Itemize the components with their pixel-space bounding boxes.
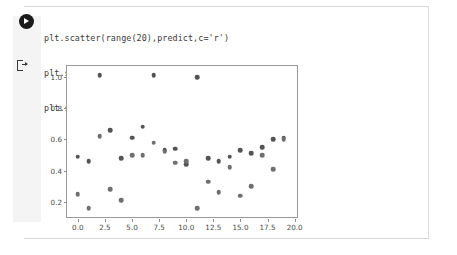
x-axis-tick-label: 12.5 bbox=[205, 223, 221, 232]
scatter-point bbox=[206, 156, 211, 161]
scatter-point bbox=[260, 153, 265, 158]
output-prompt-arrowhead bbox=[25, 62, 28, 66]
y-axis-tick bbox=[64, 139, 67, 140]
scatter-point bbox=[206, 179, 211, 184]
x-axis-tick bbox=[213, 219, 214, 222]
x-axis-tick-label: 2.5 bbox=[99, 223, 110, 232]
x-axis-tick bbox=[132, 219, 133, 222]
code-line: plt.scatter(range(20),predict,c='r') bbox=[44, 33, 229, 45]
scatter-point bbox=[141, 125, 146, 130]
plot-axes: 0.02.55.07.510.012.515.017.520.00.20.40.… bbox=[66, 65, 298, 218]
scatter-point bbox=[130, 136, 135, 141]
x-axis-tick bbox=[295, 219, 296, 222]
scatter-point bbox=[141, 153, 146, 158]
scatter-point bbox=[216, 159, 221, 164]
scatter-point bbox=[162, 150, 167, 155]
scatter-point bbox=[151, 73, 156, 78]
output-prompt-frame bbox=[17, 60, 23, 71]
scatter-point bbox=[119, 198, 124, 203]
x-axis-tick-label: 15.0 bbox=[232, 223, 248, 232]
scatter-point bbox=[282, 137, 287, 142]
page-border-right bbox=[428, 6, 429, 238]
scatter-point bbox=[108, 187, 113, 192]
y-axis-tick bbox=[64, 202, 67, 203]
scatter-point bbox=[97, 73, 102, 78]
scatter-point bbox=[227, 154, 232, 159]
x-axis-tick-label: 7.5 bbox=[153, 223, 164, 232]
x-axis-tick bbox=[186, 219, 187, 222]
scatter-point bbox=[249, 184, 254, 189]
x-axis-tick bbox=[159, 219, 160, 222]
x-axis-tick-label: 10.0 bbox=[178, 223, 194, 232]
x-axis-tick bbox=[105, 219, 106, 222]
scatter-point bbox=[151, 140, 156, 145]
scatter-point bbox=[119, 156, 124, 161]
scatter-point bbox=[227, 165, 232, 170]
scatter-point bbox=[108, 128, 113, 133]
y-axis-tick bbox=[64, 171, 67, 172]
y-axis-tick-label: 0.2 bbox=[43, 197, 62, 206]
scatter-point bbox=[130, 153, 135, 158]
x-axis-tick bbox=[268, 219, 269, 222]
y-axis-tick-label: 0.8 bbox=[43, 104, 62, 113]
y-axis-tick bbox=[64, 108, 67, 109]
matplotlib-figure: 0.02.55.07.510.012.515.017.520.00.20.40.… bbox=[40, 58, 308, 230]
y-axis-tick-label: 0.6 bbox=[43, 135, 62, 144]
x-axis-tick bbox=[240, 219, 241, 222]
scatter-point bbox=[271, 167, 276, 172]
scatter-plot-area bbox=[67, 66, 297, 217]
page-border-top bbox=[24, 6, 428, 7]
scatter-point bbox=[86, 159, 91, 164]
scatter-point bbox=[86, 206, 91, 211]
scatter-point bbox=[238, 193, 243, 198]
x-axis-tick-label: 0.0 bbox=[72, 223, 83, 232]
y-axis-tick-label: 0.4 bbox=[43, 166, 62, 175]
x-axis-tick bbox=[78, 219, 79, 222]
scatter-point bbox=[173, 160, 178, 165]
scatter-point bbox=[184, 159, 189, 164]
scatter-point bbox=[249, 151, 254, 156]
play-circle-icon[interactable] bbox=[19, 14, 34, 29]
y-axis-tick bbox=[64, 77, 67, 78]
x-axis-tick-label: 20.0 bbox=[287, 223, 303, 232]
cell-gutter bbox=[13, 16, 41, 222]
scatter-point bbox=[195, 206, 200, 211]
scatter-point bbox=[271, 137, 276, 142]
scatter-point bbox=[238, 148, 243, 153]
x-axis-tick-label: 5.0 bbox=[126, 223, 137, 232]
scatter-point bbox=[173, 146, 178, 151]
scatter-point bbox=[97, 134, 102, 139]
notebook-page: plt.scatter(range(20),predict,c='r') plt… bbox=[0, 0, 457, 255]
scatter-point bbox=[76, 192, 81, 197]
y-axis-tick-label: 1.0 bbox=[43, 72, 62, 81]
x-axis-tick-label: 17.5 bbox=[260, 223, 276, 232]
scatter-point bbox=[260, 145, 265, 150]
page-border-bottom bbox=[24, 238, 429, 239]
scatter-point bbox=[195, 75, 200, 80]
scatter-point bbox=[76, 154, 81, 159]
output-prompt-icon bbox=[17, 60, 28, 71]
scatter-point bbox=[216, 190, 221, 195]
